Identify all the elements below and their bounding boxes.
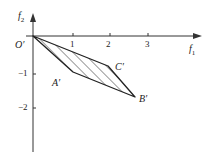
point-b-label: B′ <box>139 94 147 104</box>
x-axis-arrow-icon <box>193 33 202 39</box>
y-tick-neg2: −2 <box>18 103 28 112</box>
diagram-canvas <box>0 0 207 161</box>
x-tick-1: 1 <box>70 40 75 49</box>
x-tick-3: 3 <box>145 40 150 49</box>
x-axis-label: f1 <box>189 44 195 57</box>
point-a-label: A′ <box>52 78 60 88</box>
y-axis-label: f2 <box>18 11 24 24</box>
point-c-label: C′ <box>115 62 124 72</box>
y-tick-neg1: −1 <box>18 69 28 78</box>
origin-label: O′ <box>15 40 24 50</box>
x-tick-2: 2 <box>106 40 111 49</box>
y-axis-arrow-icon <box>30 13 36 22</box>
